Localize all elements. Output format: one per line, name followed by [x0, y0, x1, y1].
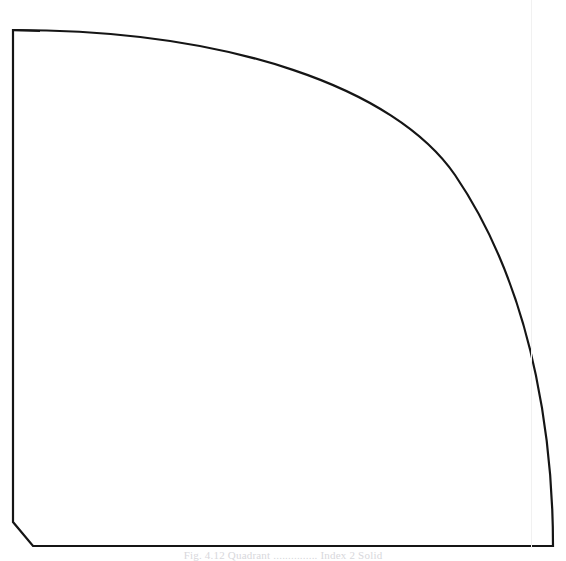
- quadrant-outline-path: [13, 30, 553, 546]
- quarter-ellipse-figure: [0, 0, 566, 561]
- figure-caption: Fig. 4.12 Quadrant ............... Index…: [0, 550, 566, 561]
- top-left-corner-joint: [13, 30, 40, 31]
- figure-page: Fig. 4.12 Quadrant ............... Index…: [0, 0, 566, 561]
- vertical-scan-line-artifact: [531, 0, 532, 548]
- figure-caption-text: Fig. 4.12 Quadrant ............... Index…: [0, 550, 566, 561]
